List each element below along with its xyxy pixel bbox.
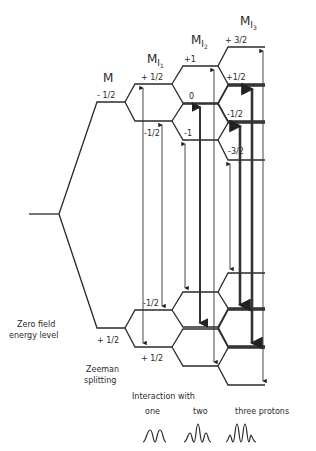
mi1-lower-minus — [125, 310, 172, 328]
energy-level-diagram: M MI1 MI2 MI3 - 1/2 + 1/2 -1/2 +1 0 -1 +… — [0, 0, 316, 451]
caption-three: three protons — [235, 407, 289, 416]
mi3-lower-minus3-2 — [218, 273, 265, 292]
label-mi1-lower-minus: -1/2 — [143, 299, 159, 308]
mi1-upper-minus — [125, 102, 172, 121]
mi2-upper-plus1 — [172, 66, 218, 84]
label-m-upper: - 1/2 — [97, 91, 115, 100]
caption-one: one — [145, 407, 160, 416]
mi3-upper-plus3-2 — [218, 47, 265, 66]
label-zeeman-2: splitting — [84, 376, 116, 385]
label-mi2-minus1: -1 — [184, 129, 192, 138]
caption-interaction: Interaction with — [132, 392, 195, 401]
caption-two: two — [193, 407, 208, 416]
label-mi3-minus3-2: -3/2 — [228, 147, 244, 156]
label-mi1-upper-minus: -1/2 — [144, 129, 160, 138]
label-mi1-lower-plus: + 1/2 — [141, 354, 163, 363]
mi1-lower-plus — [125, 328, 172, 347]
mi2-lower-minus1 — [172, 292, 218, 310]
label-mi3-plus3-2: + 3/2 — [225, 36, 247, 45]
zeeman-branch-upper — [59, 102, 125, 214]
header-mi1: MI1 — [147, 52, 164, 69]
spectrum-two-protons — [184, 424, 211, 442]
label-mi3-plus1-2: +1/2 — [226, 73, 246, 82]
header-m: M — [103, 71, 113, 85]
header-mi3: MI3 — [240, 14, 257, 31]
header-mi2: MI2 — [191, 33, 208, 50]
mi1-upper-plus — [125, 84, 172, 102]
label-zeeman-1: Zeeman — [86, 365, 119, 374]
spectrum-one-proton — [143, 430, 166, 442]
label-mi1-upper-plus: + 1/2 — [141, 73, 163, 82]
mi2-lower-plus1 — [172, 347, 218, 366]
spectrum-three-protons — [226, 424, 256, 442]
mi3-lower-plus3-2 — [218, 366, 265, 385]
label-zero-field-1: Zero field — [17, 320, 55, 329]
mi2-upper-minus1 — [172, 121, 218, 140]
label-mi2-plus1: +1 — [184, 55, 196, 64]
label-zero-field-2: energy level — [9, 331, 58, 340]
label-mi3-minus1-2: -1/2 — [227, 110, 243, 119]
zeeman-branch-lower — [59, 214, 125, 328]
label-mi2-zero: 0 — [189, 92, 194, 101]
label-m-lower: + 1/2 — [97, 336, 119, 345]
